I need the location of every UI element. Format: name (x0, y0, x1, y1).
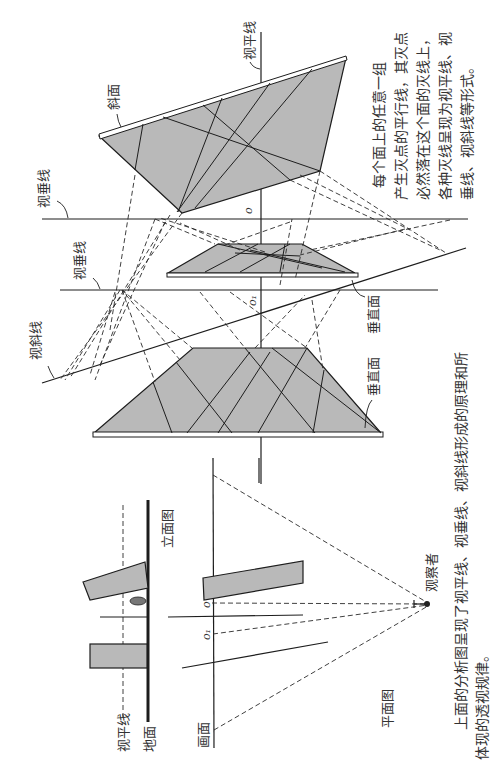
point-o1: o₁ (246, 295, 259, 306)
caption-line-1: 上面的分析图呈现了视平线、视垂线、视斜线形成的原理和所 (453, 352, 469, 730)
plan-point-o: o (200, 601, 213, 608)
observer-label: 观察者 (424, 553, 439, 592)
side-note-line-4: 各种灭线呈现为视平线、视 (437, 32, 453, 200)
side-note-line-1: 每个面上的任意一组 (371, 62, 387, 188)
inclined-plane (99, 56, 347, 213)
inclined-plane-label: 斜面 (106, 84, 121, 110)
caption: 上面的分析图呈现了视平线、视垂线、视斜线形成的原理和所 体现的透视规律。 (453, 352, 490, 760)
side-note-line-3: 必然落在这个面的灭线上， (415, 32, 431, 200)
plan-view: o o₁ 观察者 画面 平面图 (168, 458, 439, 748)
vertical-plane-middle-label: 垂直面 (366, 295, 381, 334)
side-note: 每个面上的任意一组 产生灭点的平行线，其灭点 必然落在这个面的灭线上， 各种灭线… (371, 32, 475, 200)
elevation-title: 立面图 (160, 509, 175, 548)
plan-title: 平面图 (380, 689, 395, 728)
oblique-line-label: 视斜线 (28, 321, 43, 360)
vertical-line-middle-label: 视垂线 (72, 241, 87, 280)
caption-line-2: 体现的透视规律。 (474, 648, 490, 760)
vertical-plane-bottom-label: 垂直面 (366, 357, 381, 396)
ground-label: 地面 (142, 726, 157, 752)
side-note-line-5: 垂线、视斜线等形式。 (459, 60, 475, 200)
point-o: o (242, 207, 255, 214)
horizon-line-label: 视平线 (242, 21, 257, 60)
elevation-horizon-label: 视平线 (116, 713, 131, 752)
vertical-line-top-label: 视垂线 (36, 169, 51, 208)
vertical-plane-middle (167, 244, 358, 277)
perspective-vanishing-line-diagram: o o₁ 视平线 斜面 视垂线 视垂线 视斜线 垂直面 垂直面 立面图 视平线 … (0, 0, 491, 784)
elevation-view: 立面图 视平线 地面 (83, 500, 175, 752)
plan-point-o1: o₁ (200, 629, 213, 640)
side-note-line-2: 产生灭点的平行线，其灭点 (393, 32, 409, 200)
picture-plane-label: 画面 (196, 722, 211, 748)
vertical-plane-bottom (93, 348, 383, 437)
observer-icon (414, 600, 430, 608)
